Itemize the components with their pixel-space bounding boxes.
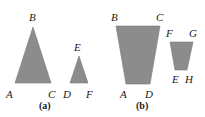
vertex-label-b: B [29, 11, 36, 23]
vertex-label-b2: B [111, 11, 118, 23]
triangle-def [70, 56, 88, 83]
trapezoid-bcda [116, 26, 160, 84]
panel-caption-b: (b) [136, 100, 148, 112]
vertex-label-g2: G [189, 27, 197, 39]
vertex-label-h2: H [184, 73, 194, 85]
panel-a: B A C E D F (a) [5, 11, 93, 112]
vertex-label-c: C [48, 88, 56, 100]
vertex-label-e: E [73, 41, 81, 53]
vertex-label-f: F [85, 88, 93, 100]
vertex-label-a: A [5, 88, 13, 100]
vertex-label-a2: A [119, 88, 127, 100]
panel-b: B C A D F G E H (b) [111, 11, 197, 112]
panel-caption-a: (a) [39, 100, 51, 112]
triangle-abc [15, 27, 51, 83]
vertex-label-f2: F [165, 27, 173, 39]
vertex-label-d: D [62, 88, 71, 100]
vertex-label-c2: C [156, 11, 164, 23]
vertex-label-d2: D [144, 88, 153, 100]
similar-figures-diagram: B A C E D F (a) B C A D F G E H (b) [0, 0, 205, 117]
trapezoid-fghe [170, 42, 193, 70]
vertex-label-e2: E [171, 73, 179, 85]
